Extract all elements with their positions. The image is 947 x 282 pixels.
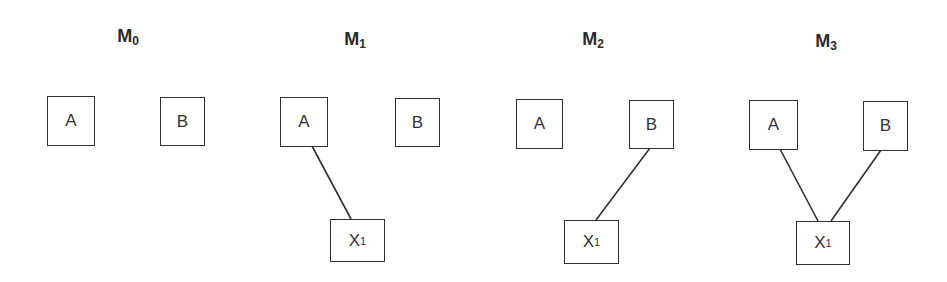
node-m3-a: A (749, 100, 798, 150)
node-m0-b: B (160, 97, 205, 146)
edge-m2-b-x1 (596, 148, 650, 220)
model-title-m0: M0 (117, 26, 139, 48)
model-title-m3: M3 (815, 31, 837, 53)
model-title-m1: M1 (344, 29, 366, 51)
node-m1-x1: X1 (330, 219, 385, 262)
node-m1-b: B (395, 98, 440, 147)
edge-m3-b-x1 (831, 150, 881, 221)
node-m3-x1: X1 (796, 221, 850, 265)
node-m0-a: A (47, 96, 95, 146)
node-m2-x1: X1 (564, 220, 619, 264)
edge-m3-a-x1 (780, 149, 818, 221)
model-title-m2: M2 (582, 29, 604, 51)
edge-m1-a-x1 (312, 146, 351, 219)
node-m2-a: A (516, 99, 563, 149)
node-m2-b: B (629, 100, 674, 149)
node-m1-a: A (280, 97, 328, 147)
node-m3-b: B (863, 101, 908, 151)
